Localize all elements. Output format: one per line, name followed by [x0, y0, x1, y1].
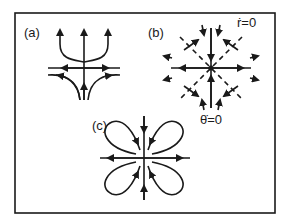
r-dot-zero-label: ṙ=0 — [237, 15, 256, 30]
panel-a-label: (a) — [24, 25, 40, 40]
theta-dot-zero-label: θ̇=0 — [200, 112, 222, 127]
panel-a: (a) — [24, 25, 120, 100]
panel-b: (b) ṙ=0 θ̇=0 — [148, 15, 258, 127]
phase-portrait-figure: (a) (b) ṙ=0 θ̇=0 — [0, 0, 290, 222]
panel-c: (c) — [92, 116, 190, 200]
panel-b-label: (b) — [148, 25, 164, 40]
figure-frame — [15, 13, 275, 213]
